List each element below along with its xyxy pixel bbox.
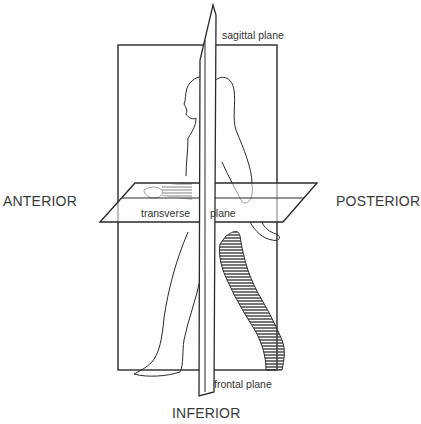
inferior-label: INFERIOR [172,405,241,421]
frontal-plane [199,5,216,396]
front-leg-outline [134,232,200,376]
back-leg-hatched [219,231,284,370]
transverse-plane-label-right: plane [210,207,236,219]
anterior-label: ANTERIOR [3,193,77,209]
posterior-label: POSTERIOR [336,193,420,209]
hand-outline [250,222,279,240]
sagittal-plane-label: sagittal plane [222,29,284,41]
transverse-plane-label-left: transverse [141,207,190,219]
frontal-plane-label: frontal plane [214,378,272,390]
